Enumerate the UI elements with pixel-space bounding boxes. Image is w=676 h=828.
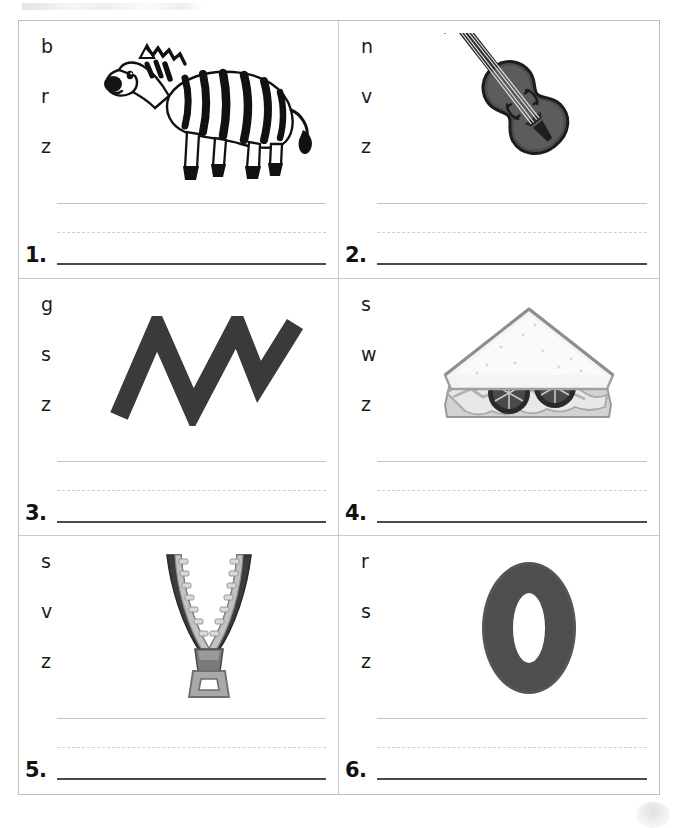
letter-choice[interactable]: z <box>39 395 85 414</box>
letter-choice[interactable]: z <box>359 652 405 671</box>
item-number: 3. <box>25 501 47 525</box>
guide-line-baseline[interactable] <box>57 521 326 523</box>
handwriting-lines-4 <box>377 461 647 523</box>
letter-choice[interactable]: z <box>39 137 85 156</box>
worksheet-grid: b r z <box>18 20 660 795</box>
letter-choices-5: s v z <box>39 552 85 671</box>
guide-line-top <box>57 461 326 462</box>
zigzag-image <box>85 285 332 457</box>
letter-choices-1: b r z <box>39 37 85 156</box>
guide-line-top <box>57 718 326 719</box>
letter-choice[interactable]: r <box>359 552 405 571</box>
item-number: 4. <box>345 501 367 525</box>
item-number: 6. <box>345 758 367 782</box>
item-number: 2. <box>345 243 367 267</box>
guide-line-baseline[interactable] <box>377 263 647 265</box>
violin-image <box>405 27 653 199</box>
worksheet-cell-6: r s z 6. <box>339 536 659 794</box>
top-edge-artifact <box>22 3 202 10</box>
corner-artifact <box>636 802 670 828</box>
letter-choice[interactable]: v <box>39 602 85 621</box>
worksheet-cell-4: s w z <box>339 279 659 537</box>
guide-line-dashed <box>57 747 326 748</box>
guide-line-dashed <box>57 490 326 491</box>
letter-choices-6: r s z <box>359 552 405 671</box>
letter-choice[interactable]: s <box>359 295 405 314</box>
guide-line-dashed <box>377 747 647 748</box>
guide-line-dashed <box>57 232 326 233</box>
letter-choice[interactable]: n <box>359 37 405 56</box>
guide-line-baseline[interactable] <box>57 778 326 780</box>
item-number: 1. <box>25 243 47 267</box>
letter-choice[interactable]: b <box>39 37 85 56</box>
handwriting-lines-5 <box>57 718 326 780</box>
handwriting-lines-1 <box>57 203 326 265</box>
zipper-image <box>85 542 332 714</box>
letter-choice[interactable]: g <box>39 295 85 314</box>
letter-choice[interactable]: z <box>39 652 85 671</box>
worksheet-cell-2: n v z <box>339 21 659 279</box>
item-number: 5. <box>25 758 47 782</box>
guide-line-baseline[interactable] <box>377 521 647 523</box>
guide-line-top <box>377 203 647 204</box>
guide-line-top <box>377 718 647 719</box>
letter-choice[interactable]: s <box>39 345 85 364</box>
zero-image <box>405 542 653 714</box>
letter-choice[interactable]: z <box>359 395 405 414</box>
sandwich-image <box>405 285 653 457</box>
guide-line-dashed <box>377 232 647 233</box>
handwriting-lines-3 <box>57 461 326 523</box>
guide-line-top <box>57 203 326 204</box>
guide-line-dashed <box>377 490 647 491</box>
letter-choice[interactable]: w <box>359 345 405 364</box>
handwriting-lines-6 <box>377 718 647 780</box>
guide-line-baseline[interactable] <box>377 778 647 780</box>
letter-choice[interactable]: s <box>39 552 85 571</box>
handwriting-lines-2 <box>377 203 647 265</box>
letter-choices-3: g s z <box>39 295 85 414</box>
guide-line-top <box>377 461 647 462</box>
letter-choice[interactable]: v <box>359 87 405 106</box>
worksheet-cell-1: b r z <box>19 21 339 279</box>
worksheet-cell-5: s v z <box>19 536 339 794</box>
letter-choice[interactable]: z <box>359 137 405 156</box>
letter-choice[interactable]: s <box>359 602 405 621</box>
letter-choices-4: s w z <box>359 295 405 414</box>
zebra-image <box>85 27 332 199</box>
letter-choices-2: n v z <box>359 37 405 156</box>
letter-choice[interactable]: r <box>39 87 85 106</box>
worksheet-cell-3: g s z 3. <box>19 279 339 537</box>
guide-line-baseline[interactable] <box>57 263 326 265</box>
